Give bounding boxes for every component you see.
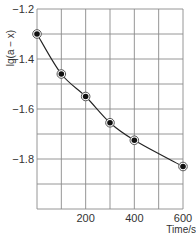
- x-tick-label: 400: [125, 212, 143, 224]
- data-point: [107, 120, 113, 126]
- x-axis-ticks: 200400600: [76, 212, 192, 224]
- chart-grid: [37, 9, 183, 209]
- y-tick-label: −1.6: [12, 103, 34, 115]
- x-tick-label: 200: [76, 212, 94, 224]
- data-point: [83, 94, 89, 100]
- data-point: [59, 71, 65, 77]
- y-axis-ticks: −1.2−1.4−1.6−1.8: [12, 3, 34, 165]
- data-point: [180, 164, 186, 170]
- x-axis-label: Time/s: [166, 224, 196, 235]
- y-tick-label: −1.8: [12, 153, 34, 165]
- x-tick-label: 600: [174, 212, 192, 224]
- line-chart: −1.2−1.4−1.6−1.8 200400600 lg(a − x) Tim…: [0, 0, 196, 239]
- y-tick-label: −1.2: [12, 3, 34, 15]
- y-axis-label: lg(a − x): [5, 30, 16, 66]
- data-point: [34, 31, 40, 37]
- data-point: [132, 137, 138, 143]
